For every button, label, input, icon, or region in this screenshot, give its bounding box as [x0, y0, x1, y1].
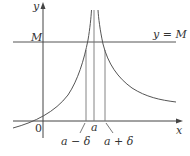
a-plus-delta-label: a + δ — [104, 135, 134, 148]
pointer-a-plus-delta — [106, 123, 113, 133]
x-axis-label: x — [176, 124, 183, 137]
origin-label: 0 — [35, 122, 42, 135]
a-minus-delta-label: a − δ — [61, 135, 91, 148]
x-axis-arrow-icon — [176, 119, 183, 124]
pointer-a-minus-delta — [80, 123, 85, 133]
y-axis-arrow-icon — [41, 2, 46, 9]
line-y-equals-m-label: y = M — [152, 28, 187, 41]
m-tick-label: M — [30, 31, 43, 44]
y-axis-label: y — [32, 0, 40, 13]
curve-left-branch — [13, 10, 92, 128]
a-label: a — [91, 121, 98, 134]
vertical-asymptote-diagram: y x 0 M y = M a a − δ a + δ — [0, 0, 190, 156]
curve-right-branch — [98, 10, 176, 102]
